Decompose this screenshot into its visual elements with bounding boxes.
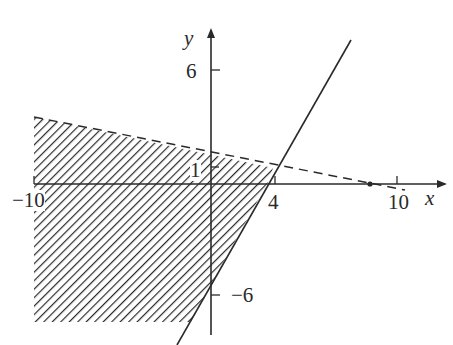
x-intercept-dot [367,181,372,186]
inequality-graph [0,0,453,345]
x-axis-label: x [425,188,434,209]
y-axis-label: y [184,28,193,49]
x-tick-label-4: 4 [268,192,279,213]
x-tick-label-10: 10 [388,192,409,213]
y-tick-label-6: 6 [186,61,197,82]
x-tick-label-neg10: −10 [12,190,45,211]
y-tick-label-neg6: −6 [231,285,253,306]
y-tick-label-1: 1 [190,160,201,181]
